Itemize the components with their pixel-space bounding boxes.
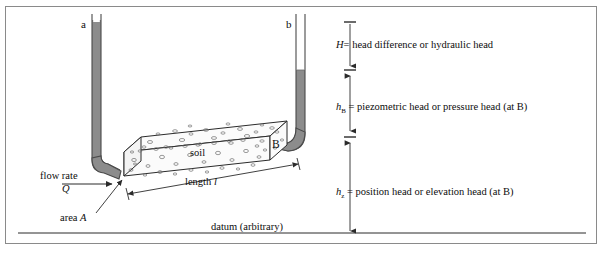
elevation-head-equals: = [347, 186, 353, 197]
elevation-head-label: hz = position head or elevation head (at… [336, 187, 514, 200]
area-symbol: A [80, 212, 86, 223]
standpipe-a [92, 14, 121, 179]
standpipe-a-label: a [81, 19, 86, 30]
piezometric-head-equals: = [349, 101, 355, 112]
soil-column [124, 121, 287, 176]
area-leader-line [96, 180, 122, 213]
length-symbol: l [214, 176, 217, 187]
standpipe-b-label: b [286, 19, 292, 30]
elevation-head-subscript: z [341, 192, 344, 200]
head-difference-symbol: H [336, 39, 344, 50]
soil-material-label: soil [190, 148, 205, 159]
elevation-head-description: position head or elevation head (at B) [356, 186, 514, 197]
piezometric-head-subscript: B [341, 107, 346, 115]
flow-rate-label: flow rate [40, 171, 78, 182]
head-difference-label: H= head difference or hydraulic head [336, 40, 493, 51]
datum-label: datum (arbitrary) [211, 222, 283, 233]
point-b-label: B [272, 139, 280, 151]
flow-rate-symbol: Q [62, 184, 70, 195]
length-label: length l [185, 177, 217, 188]
piezometric-head-description: piezometric head or pressure head (at B) [357, 101, 527, 112]
area-label: area A [60, 213, 87, 224]
piezometric-head-label: hB = piezometric head or pressure head (… [336, 102, 527, 115]
diagram-drawing [0, 0, 604, 255]
figure-container: a b soil B length l flow rate Q area A d… [0, 0, 604, 255]
head-difference-description: head difference or hydraulic head [352, 39, 493, 50]
head-difference-equals: = [344, 39, 350, 50]
